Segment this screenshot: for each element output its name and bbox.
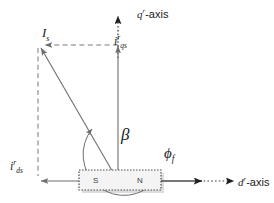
stator-current-vector — [41, 48, 118, 181]
flux-label: ϕf — [164, 146, 174, 164]
magnet-south-pole-label: S — [93, 176, 98, 185]
q-axis-suffix: -axis — [145, 8, 168, 20]
stator-current-subscript: s — [46, 34, 49, 43]
magnet-north-pole-label: N — [137, 176, 143, 185]
q-axis-label: qr-axis — [137, 8, 168, 20]
ids-subscript: ds — [16, 166, 23, 175]
beta-symbol: β — [121, 125, 129, 144]
phasor-diagram-canvas: qr-axis dr-axis Is irqs irds β ϕf S N — [0, 0, 274, 203]
flux-subscript: f — [172, 154, 175, 164]
ids-label: irds — [10, 159, 23, 175]
flux-symbol: ϕ — [164, 145, 172, 161]
beta-angle-label: β — [121, 126, 129, 143]
magnet-box — [79, 170, 161, 190]
iqs-subscript: qs — [120, 41, 127, 50]
d-axis-suffix: -axis — [246, 176, 269, 188]
iqs-label: irqs — [114, 34, 127, 50]
stator-current-label: Is — [42, 26, 49, 43]
d-axis-label: dr-axis — [238, 176, 269, 188]
